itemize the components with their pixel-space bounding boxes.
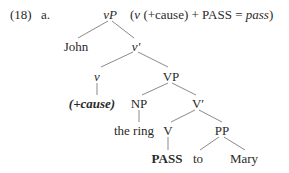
annotation-plus: + bbox=[191, 7, 198, 22]
node-vP: vP bbox=[103, 8, 117, 21]
annotation-pass: PASS bbox=[202, 7, 232, 22]
annotation-result: pass bbox=[246, 7, 269, 22]
node-v-feature: (+cause) bbox=[69, 97, 115, 110]
node-V: V bbox=[163, 124, 172, 137]
node-NP: NP bbox=[131, 97, 148, 110]
node-mary: Mary bbox=[230, 152, 258, 165]
node-vbar: v′ bbox=[132, 40, 141, 53]
node-PP: PP bbox=[215, 124, 229, 137]
derivation-annotation: (v (+cause) + PASS = pass) bbox=[130, 8, 273, 21]
node-v: v bbox=[94, 70, 100, 83]
example-number: (18) bbox=[10, 8, 32, 21]
node-to: to bbox=[193, 152, 203, 165]
annotation-equals: = bbox=[235, 7, 242, 22]
annotation-feature: (+cause) bbox=[143, 7, 188, 22]
tree-edges bbox=[0, 0, 289, 173]
annotation-v: v bbox=[134, 7, 140, 22]
example-sub-label: a. bbox=[41, 8, 50, 21]
node-Vbar: V′ bbox=[192, 97, 204, 110]
annotation-close: ) bbox=[269, 7, 273, 22]
node-VP: VP bbox=[163, 70, 180, 83]
node-vP-label: vP bbox=[103, 7, 117, 22]
node-the-ring: the ring bbox=[114, 124, 154, 137]
node-PASS: PASS bbox=[152, 152, 183, 165]
node-john: John bbox=[64, 40, 89, 53]
